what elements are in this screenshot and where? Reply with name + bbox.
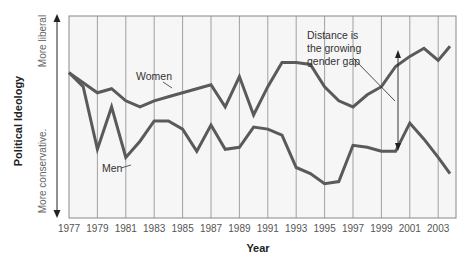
x-tick-label: 1999 <box>370 223 393 234</box>
gender-gap-line-1: Distance is <box>307 29 358 41</box>
x-tick-label: 1989 <box>228 223 251 234</box>
x-axis-ticks: 1977197919811983198519871989199119931995… <box>58 223 450 234</box>
x-tick-label: 1995 <box>313 223 336 234</box>
x-tick-label: 1977 <box>58 223 81 234</box>
x-tick-label: 1979 <box>86 223 109 234</box>
y-axis-bottom-label: More conservative. <box>37 129 48 213</box>
x-tick-label: 2003 <box>427 223 450 234</box>
y-axis-title: Political Ideology <box>12 75 24 166</box>
x-axis-title: Year <box>246 242 270 254</box>
y-axis-arrow <box>54 14 61 218</box>
gender-gap-line-2: the growing <box>307 42 361 54</box>
x-tick-label: 2001 <box>399 223 422 234</box>
gender-gap-line-3: gender gap <box>307 55 360 67</box>
x-tick-label: 1993 <box>285 223 308 234</box>
x-tick-label: 1985 <box>171 223 194 234</box>
x-tick-label: 1987 <box>200 223 223 234</box>
y-axis-top-label: More liberal <box>37 15 48 67</box>
x-tick-label: 1997 <box>342 223 365 234</box>
women-label: Women <box>136 70 172 82</box>
men-label: Men <box>102 162 123 174</box>
x-tick-label: 1983 <box>143 223 166 234</box>
x-tick-label: 1981 <box>115 223 138 234</box>
x-tick-label: 1991 <box>257 223 280 234</box>
gender-gap-line-chart: Political Ideology More liberal More con… <box>0 0 472 266</box>
